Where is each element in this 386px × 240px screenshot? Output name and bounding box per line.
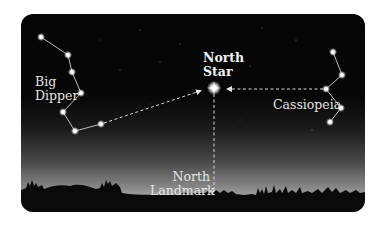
cassiopeia-label: Cassiopeia [273,98,341,112]
north-star-icon [207,81,221,95]
north-star-label-line2: Star [203,65,244,79]
north-landmark-label-line1: North [150,170,210,184]
north-landmark-label: North Landmark [150,170,210,198]
north-star-label-line1: North [203,51,244,65]
north-star-label: North Star [203,51,244,79]
cassiopeia-label-text: Cassiopeia [273,98,341,112]
big-dipper-label-line1: Big [35,75,78,89]
north-landmark-label-line2: Landmark [150,184,210,198]
cassiopeia-stars [322,48,346,126]
big-dipper-pointer-line [104,91,200,123]
big-dipper-label: Big Dipper [35,75,78,103]
big-dipper-label-line2: Dipper [35,89,78,103]
